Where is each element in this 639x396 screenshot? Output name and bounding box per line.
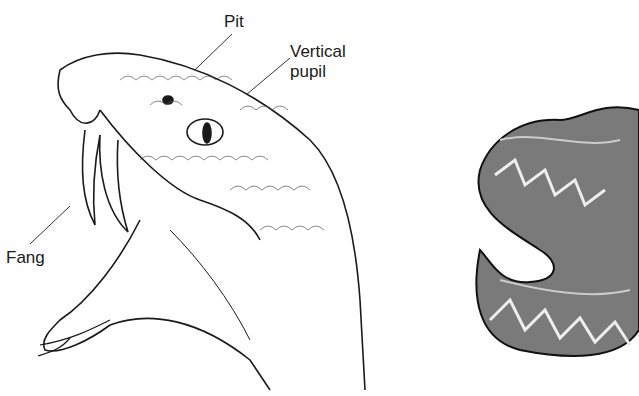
label-vertical-pupil-line1: Vertical (290, 42, 346, 61)
label-vertical-pupil-line2: pupil (290, 62, 326, 81)
diagram-canvas: Pit Vertical pupil Fang (0, 0, 639, 396)
snake-head (38, 53, 365, 390)
label-pit: Pit (224, 12, 244, 31)
snake-body-coil (476, 107, 639, 356)
fang-leader-line (30, 206, 70, 244)
label-fang: Fang (6, 248, 45, 267)
